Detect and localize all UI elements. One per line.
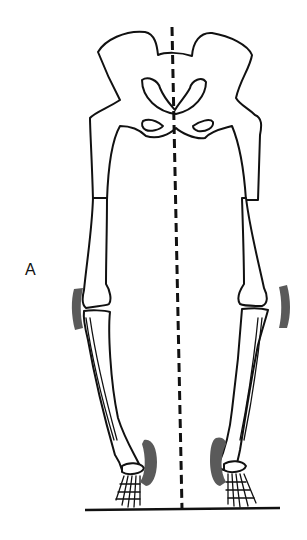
ground-line (85, 508, 280, 510)
left-knee-pressure-zone (72, 288, 83, 330)
right-leg (218, 198, 268, 507)
skeleton-diagram (0, 0, 307, 540)
left-leg (83, 198, 144, 507)
left-foot (116, 463, 144, 507)
right-knee-pressure-zone (279, 285, 290, 328)
right-foot (224, 461, 256, 507)
left-ankle-pressure-zone (140, 440, 157, 486)
